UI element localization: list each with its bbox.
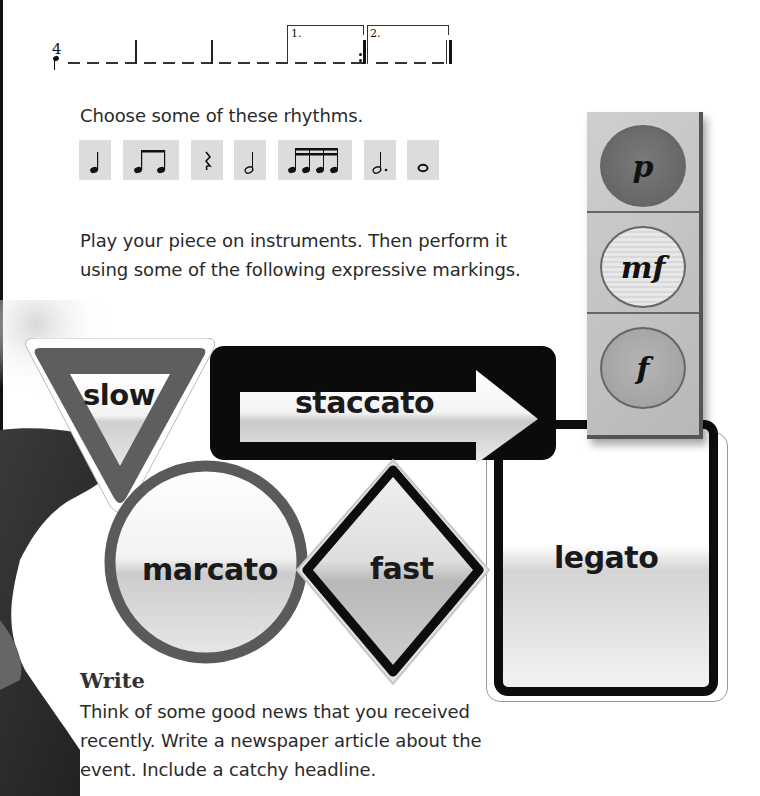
beat-blank[interactable] — [106, 62, 118, 64]
traffic-light-cell-p: p — [587, 112, 699, 213]
beat-blank[interactable] — [432, 62, 444, 64]
final-barline — [449, 40, 452, 64]
dotted-half-note-icon — [364, 140, 396, 180]
write-prompt-line2: recently. Write a newspaper article abou… — [80, 727, 482, 755]
write-prompt-line1: Think of some good news that you receive… — [80, 698, 470, 726]
repeat-dot — [359, 53, 362, 56]
beat-blank[interactable] — [333, 62, 345, 64]
barline — [211, 40, 213, 64]
repeat-dot — [359, 59, 362, 62]
rhythm-tile-dotted-half-note[interactable] — [364, 140, 396, 180]
slow-sign-label: slow — [83, 378, 155, 412]
rhythm-tile-two-eighth-notes[interactable] — [123, 140, 179, 180]
dynamic-lamp-p[interactable]: p — [600, 125, 686, 207]
fast-sign-label: fast — [370, 551, 434, 586]
quarter-note-icon — [79, 140, 111, 180]
choose-rhythms-instruction: Choose some of these rhythms. — [80, 102, 363, 130]
barline — [135, 40, 137, 64]
beat-blank[interactable] — [144, 62, 156, 64]
barline — [287, 26, 288, 64]
dynamics-traffic-light: p mf f — [587, 112, 703, 439]
traffic-light-cell-f: f — [587, 314, 699, 415]
beat-blank[interactable] — [182, 62, 194, 64]
beat-blank[interactable] — [87, 62, 99, 64]
marcato-sign-label: marcato — [142, 552, 278, 587]
rhythm-tile-four-sixteenth-notes[interactable] — [278, 140, 352, 180]
beat-blank[interactable] — [295, 62, 307, 64]
second-ending-label: 2. — [370, 27, 381, 40]
play-instruction-line2: using some of the following expressive m… — [80, 256, 521, 284]
beat-blank[interactable] — [314, 62, 326, 64]
beat-blank[interactable] — [219, 62, 231, 64]
beat-blank[interactable] — [351, 62, 363, 64]
beat-blank[interactable] — [257, 62, 269, 64]
write-heading: Write — [80, 668, 145, 693]
beat-blank[interactable] — [163, 62, 175, 64]
beat-blank[interactable] — [238, 62, 250, 64]
rhythm-tile-half-note[interactable] — [234, 140, 266, 180]
dynamic-label-mf: mf — [621, 250, 666, 285]
half-note-icon — [234, 140, 266, 180]
music-staff: 4 1. 2. — [0, 0, 760, 90]
dynamic-label-p: p — [633, 149, 654, 184]
repeat-barline — [363, 40, 366, 64]
rhythm-tile-quarter-rest[interactable] — [191, 140, 223, 180]
play-instruction-line1: Play your piece on instruments. Then per… — [80, 227, 507, 255]
beat-blank[interactable] — [68, 62, 80, 64]
beat-blank[interactable] — [376, 62, 388, 64]
dynamic-lamp-mf[interactable]: mf — [600, 226, 686, 308]
barline — [446, 40, 447, 64]
dynamic-lamp-f[interactable]: f — [600, 327, 686, 409]
write-prompt-line3: event. Include a catchy headline. — [80, 756, 376, 784]
legato-sign-label: legato — [554, 540, 658, 575]
time-signature-stem — [54, 58, 55, 70]
dynamic-label-f: f — [637, 351, 650, 386]
beat-blank[interactable] — [395, 62, 407, 64]
four-sixteenth-notes-icon — [278, 140, 352, 180]
staccato-sign-label: staccato — [295, 385, 434, 420]
first-ending-label: 1. — [291, 27, 302, 40]
traffic-light-cell-mf: mf — [587, 213, 699, 314]
whole-note-icon — [407, 140, 439, 180]
two-eighth-notes-icon — [123, 140, 179, 180]
beat-blank[interactable] — [414, 62, 426, 64]
rhythm-tile-quarter-note[interactable] — [79, 140, 111, 180]
quarter-rest-icon — [191, 140, 223, 180]
rhythm-tile-whole-note[interactable] — [407, 140, 439, 180]
